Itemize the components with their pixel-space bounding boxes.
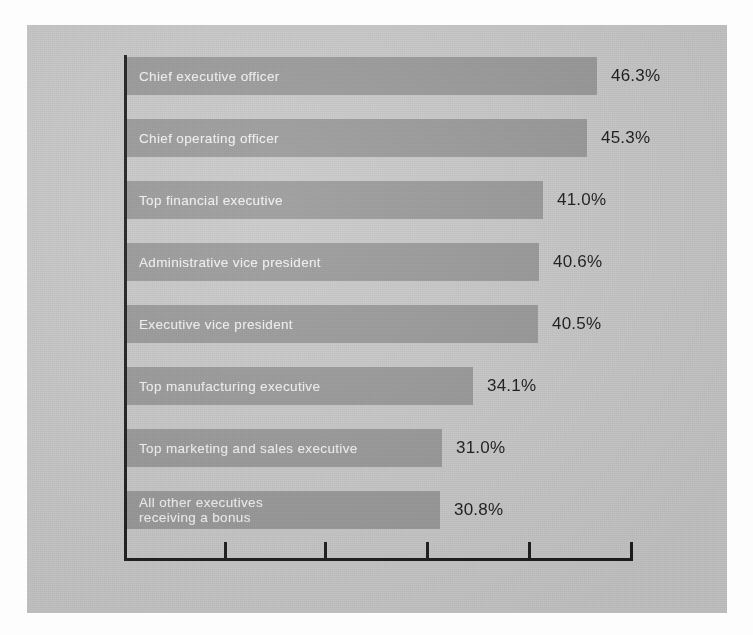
bar-category-label: Chief operating officer [126, 131, 279, 146]
bar-category-label: Executive vice president [126, 317, 293, 332]
x-axis-tick-1 [224, 542, 227, 559]
chart-panel: Chief executive officer46.3%Chief operat… [27, 25, 727, 613]
bar-value-label: 40.5% [552, 305, 601, 343]
bar[interactable]: Chief operating officer [126, 119, 587, 157]
bar-row: Chief operating officer45.3% [126, 119, 659, 157]
bar-value-label: 46.3% [611, 57, 660, 95]
x-axis-tick-end [630, 542, 633, 559]
bar-row: All other executives receiving a bonus30… [126, 491, 659, 529]
bar-row: Top marketing and sales executive31.0% [126, 429, 659, 467]
bar[interactable]: Top manufacturing executive [126, 367, 473, 405]
x-axis-tick-2 [324, 542, 327, 559]
bar-value-label: 40.6% [553, 243, 602, 281]
bar-value-label: 30.8% [454, 491, 503, 529]
chart-figure: Chief executive officer46.3%Chief operat… [0, 0, 753, 635]
y-axis-line [124, 55, 127, 560]
bar-row: Executive vice president40.5% [126, 305, 659, 343]
bar[interactable]: Top marketing and sales executive [126, 429, 442, 467]
bar-category-label: Top marketing and sales executive [126, 441, 358, 456]
bar-row: Top financial executive41.0% [126, 181, 659, 219]
x-axis-line [124, 558, 633, 561]
bar[interactable]: All other executives receiving a bonus [126, 491, 440, 529]
bar-category-label: Chief executive officer [126, 69, 280, 84]
bar-category-label: Top financial executive [126, 193, 283, 208]
plot-area: Chief executive officer46.3%Chief operat… [124, 50, 659, 585]
bar-category-label: Administrative vice president [126, 255, 321, 270]
x-axis-tick-3 [426, 542, 429, 559]
bar-value-label: 31.0% [456, 429, 505, 467]
bar[interactable]: Administrative vice president [126, 243, 539, 281]
bar-row: Chief executive officer46.3% [126, 57, 659, 95]
bar-category-label: Top manufacturing executive [126, 379, 320, 394]
bar-rows: Chief executive officer46.3%Chief operat… [126, 50, 659, 585]
bar[interactable]: Chief executive officer [126, 57, 597, 95]
bar-category-label: All other executives receiving a bonus [126, 495, 263, 525]
bar-value-label: 41.0% [557, 181, 606, 219]
bar[interactable]: Top financial executive [126, 181, 543, 219]
bar-row: Administrative vice president40.6% [126, 243, 659, 281]
bar-row: Top manufacturing executive34.1% [126, 367, 659, 405]
bar-value-label: 34.1% [487, 367, 536, 405]
bar[interactable]: Executive vice president [126, 305, 538, 343]
x-axis-tick-4 [528, 542, 531, 559]
bar-value-label: 45.3% [601, 119, 650, 157]
